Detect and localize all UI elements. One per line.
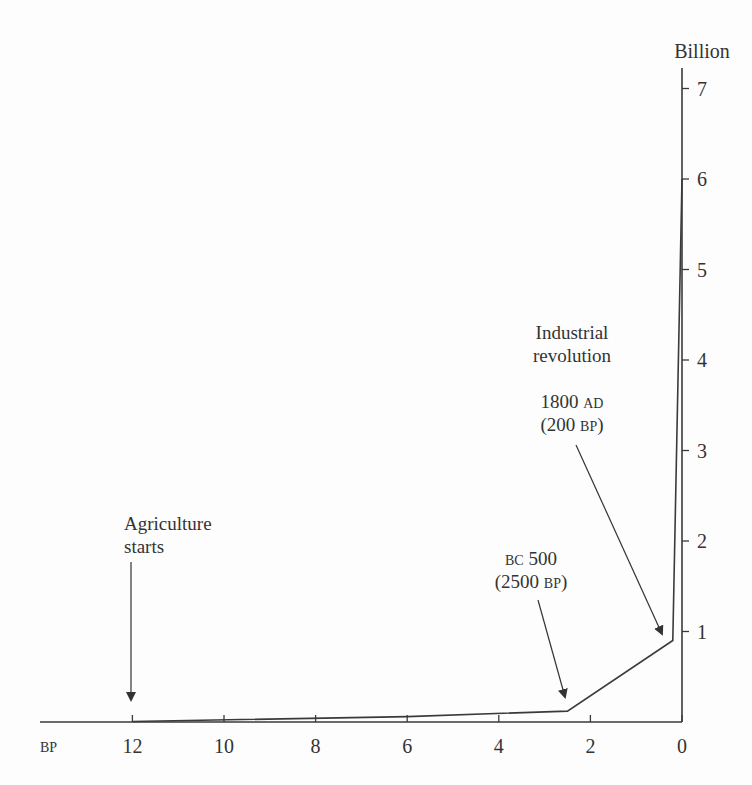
x-tick-label: 8	[311, 735, 321, 757]
x-tick-label: 6	[402, 735, 412, 757]
annotation-agriculture: Agriculture starts	[124, 513, 212, 700]
svg-text:Agriculture: Agriculture	[124, 513, 212, 534]
x-tick-label: 10	[214, 735, 234, 757]
x-tick-label: 0	[677, 735, 687, 757]
y-tick-label: 6	[697, 168, 707, 190]
x-tick-label: 2	[585, 735, 595, 757]
svg-text:(200 BP): (200 BP)	[540, 414, 603, 436]
y-axis: 1234567 Billion	[674, 40, 730, 722]
svg-text:Industrial: Industrial	[536, 322, 609, 343]
svg-text:(2500 BP): (2500 BP)	[495, 571, 568, 593]
svg-text:1800 AD: 1800 AD	[541, 391, 604, 412]
y-tick-label: 1	[697, 621, 707, 643]
annotation-bc500: BC 500 (2500 BP)	[495, 548, 568, 697]
population-line	[132, 179, 682, 722]
arrow-icon	[538, 600, 565, 697]
svg-text:starts: starts	[124, 536, 164, 557]
y-tick-label: 5	[697, 259, 707, 281]
y-axis-unit: Billion	[674, 40, 730, 62]
population-chart: 121086420 BP 1234567 Billion Agriculture…	[0, 0, 752, 785]
svg-text:BC 500: BC 500	[505, 548, 557, 569]
y-tick-label: 7	[697, 78, 707, 100]
y-tick-label: 4	[697, 349, 707, 371]
svg-text:revolution: revolution	[533, 345, 612, 366]
x-axis-unit: BP	[40, 740, 57, 755]
x-tick-label: 12	[122, 735, 142, 757]
x-tick-label: 4	[494, 735, 504, 757]
arrow-icon	[576, 445, 662, 634]
y-tick-label: 3	[697, 440, 707, 462]
y-tick-label: 2	[697, 530, 707, 552]
